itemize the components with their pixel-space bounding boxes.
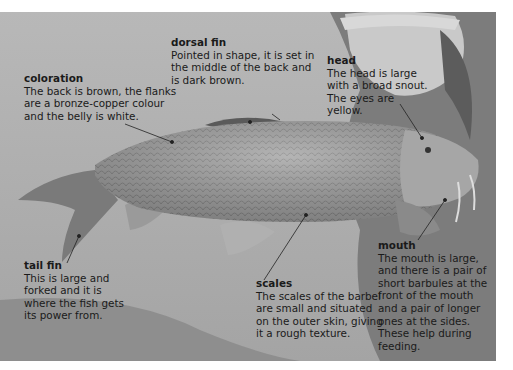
annotation-mouth: mouth The mouth is large, and there is a… [378, 239, 490, 352]
annotation-coloration: coloration The back is brown, the flanks… [24, 72, 184, 122]
annotation-tail-fin: tail fin This is large and forked and it… [24, 259, 124, 322]
annotation-scales: scales The scales of the barbel are smal… [256, 277, 386, 340]
annotation-text: Pointed in shape, it is set in the middl… [171, 49, 316, 87]
annotation-title: dorsal fin [171, 36, 316, 49]
fish-eye [425, 147, 431, 153]
annotation-title: coloration [24, 72, 184, 85]
annotation-text: The mouth is large, and there is a pair … [378, 252, 490, 353]
annotation-text: The back is brown, the flanks are a bron… [24, 85, 184, 123]
annotation-head: head The head is large with a broad snou… [327, 54, 432, 117]
annotation-text: The scales of the barbel are small and s… [256, 290, 386, 340]
annotation-text: The head is large with a broad snout. Th… [327, 67, 432, 117]
annotation-title: scales [256, 277, 386, 290]
annotation-title: tail fin [24, 259, 124, 272]
annotation-title: mouth [378, 239, 490, 252]
annotation-dorsal-fin: dorsal fin Pointed in shape, it is set i… [171, 36, 316, 86]
annotation-title: head [327, 54, 432, 67]
annotation-text: This is large and forked and it is where… [24, 272, 124, 322]
